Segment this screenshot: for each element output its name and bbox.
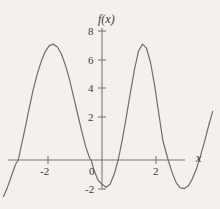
- y-tick-label-neg2: -2: [85, 184, 94, 195]
- chart-figure: 8 6 4 2 0 -2 -2 2 f(x) x: [0, 0, 220, 209]
- x-tick-label-neg2: -2: [40, 166, 49, 177]
- chart-plot-area: [0, 0, 220, 209]
- y-tick-label-2: 2: [88, 112, 94, 123]
- y-tick-label-0: 0: [89, 166, 95, 177]
- y-tick-label-6: 6: [88, 55, 94, 66]
- y-tick-label-4: 4: [88, 83, 94, 94]
- function-curve: [3, 44, 212, 196]
- x-axis-title: x: [196, 152, 201, 164]
- y-axis-title: f(x): [98, 13, 115, 25]
- x-tick-label-pos2: 2: [153, 166, 159, 177]
- y-tick-label-8: 8: [88, 26, 94, 37]
